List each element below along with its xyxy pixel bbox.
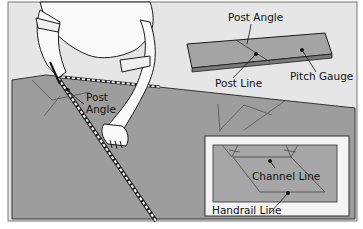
label-pitch-gauge: Pitch Gauge bbox=[290, 70, 353, 82]
label-post-line: Post Line bbox=[215, 77, 262, 89]
handrail-layout-diagram: Post Angle Post Line Pitch Gauge Post An… bbox=[0, 0, 363, 229]
label-post-angle-top: Post Angle bbox=[228, 11, 283, 23]
inset-detail: Channel Line Handrail Line bbox=[205, 136, 349, 216]
label-post-angle-left-2: Angle bbox=[86, 103, 116, 115]
label-post-angle-left-1: Post bbox=[86, 91, 108, 103]
illustration-frame: Post Angle Post Line Pitch Gauge Post An… bbox=[0, 0, 363, 229]
label-handrail-line: Handrail Line bbox=[212, 204, 281, 216]
label-channel-line: Channel Line bbox=[252, 170, 320, 182]
